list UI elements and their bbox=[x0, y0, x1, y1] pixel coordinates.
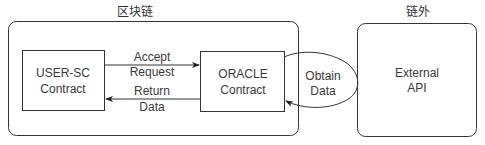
offchain-label: 链外 bbox=[406, 4, 430, 19]
obtain-data-label-line2: Data bbox=[310, 84, 336, 98]
oracle-label-line2: Contract bbox=[220, 83, 266, 97]
accept-request-label-line2: Request bbox=[130, 65, 175, 79]
offchain-region: 链外 bbox=[406, 4, 430, 19]
blockchain-label: 区块链 bbox=[117, 4, 153, 19]
user-sc-label-line2: Contract bbox=[40, 82, 86, 96]
return-data-label-line1: Return bbox=[134, 84, 170, 98]
external-api-label-line2: API bbox=[407, 81, 426, 95]
oracle-label-line1: ORACLE bbox=[218, 67, 267, 81]
accept-request-edge: Accept Request bbox=[105, 50, 199, 79]
oracle-contract-node: ORACLE Contract bbox=[201, 52, 285, 112]
oracle-architecture-diagram: 区块链 链外 USER-SC Contract ORACLE Contract … bbox=[0, 0, 485, 145]
obtain-data-label-line1: Obtain bbox=[305, 69, 340, 83]
return-data-edge: Return Data bbox=[106, 84, 200, 114]
accept-request-label-line1: Accept bbox=[134, 50, 171, 64]
return-data-label-line2: Data bbox=[139, 100, 165, 114]
external-api-node: External API bbox=[358, 24, 477, 137]
external-api-label-line1: External bbox=[395, 66, 439, 80]
user-sc-contract-node: USER-SC Contract bbox=[23, 51, 105, 111]
user-sc-label-line1: USER-SC bbox=[36, 66, 90, 80]
obtain-data-edge: Obtain Data bbox=[284, 52, 358, 107]
